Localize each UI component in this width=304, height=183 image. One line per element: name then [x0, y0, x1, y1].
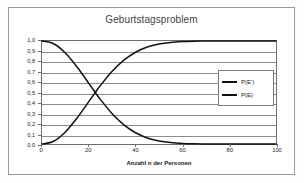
y-tick-label: 0,1 — [27, 132, 35, 138]
y-tick-label: 0,2 — [27, 121, 35, 127]
x-tick-label: 20 — [85, 147, 91, 153]
x-tick-mark — [230, 144, 231, 147]
legend-line-swatch-icon — [222, 81, 237, 83]
x-tick-mark — [277, 144, 278, 147]
y-tick-label: 0,3 — [27, 111, 35, 117]
y-tick-label: 1,0 — [27, 37, 35, 43]
y-tick-label: 0,8 — [27, 58, 35, 64]
legend-entry: P(E') — [222, 75, 270, 88]
legend-entry: P(E) — [222, 88, 270, 101]
legend-label: P(E') — [241, 79, 254, 85]
y-tick-label: 0,0 — [27, 142, 35, 148]
legend-line-swatch-icon — [222, 94, 237, 96]
x-tick-label: 60 — [179, 147, 185, 153]
x-tick-mark — [135, 144, 136, 147]
y-tick-label: 0,7 — [27, 69, 35, 75]
chart-legend: P(E')P(E) — [218, 70, 274, 106]
x-tick-label: 40 — [132, 147, 138, 153]
y-tick-label: 0,6 — [27, 79, 35, 85]
chart-title: Geburtstagsproblem — [8, 14, 295, 25]
chart-figure: Geburtstagsproblem Wahrscheinlichkeit 0,… — [0, 0, 304, 183]
x-tick-mark — [183, 144, 184, 147]
x-tick-label: 80 — [227, 147, 233, 153]
y-axis-tick-labels: 0,00,10,20,30,40,50,60,70,80,91,0 — [14, 40, 38, 145]
y-tick-label: 0,9 — [27, 48, 35, 54]
x-tick-label: 0 — [39, 147, 42, 153]
x-tick-mark — [88, 144, 89, 147]
x-axis-tick-labels: 020406080100 — [41, 147, 277, 159]
x-tick-mark — [41, 144, 42, 147]
x-tick-label: 100 — [272, 147, 282, 153]
x-axis-title: Anzahl n der Personen — [41, 160, 277, 166]
legend-label: P(E) — [241, 92, 253, 98]
y-tick-label: 0,5 — [27, 90, 35, 96]
y-tick-label: 0,4 — [27, 100, 35, 106]
